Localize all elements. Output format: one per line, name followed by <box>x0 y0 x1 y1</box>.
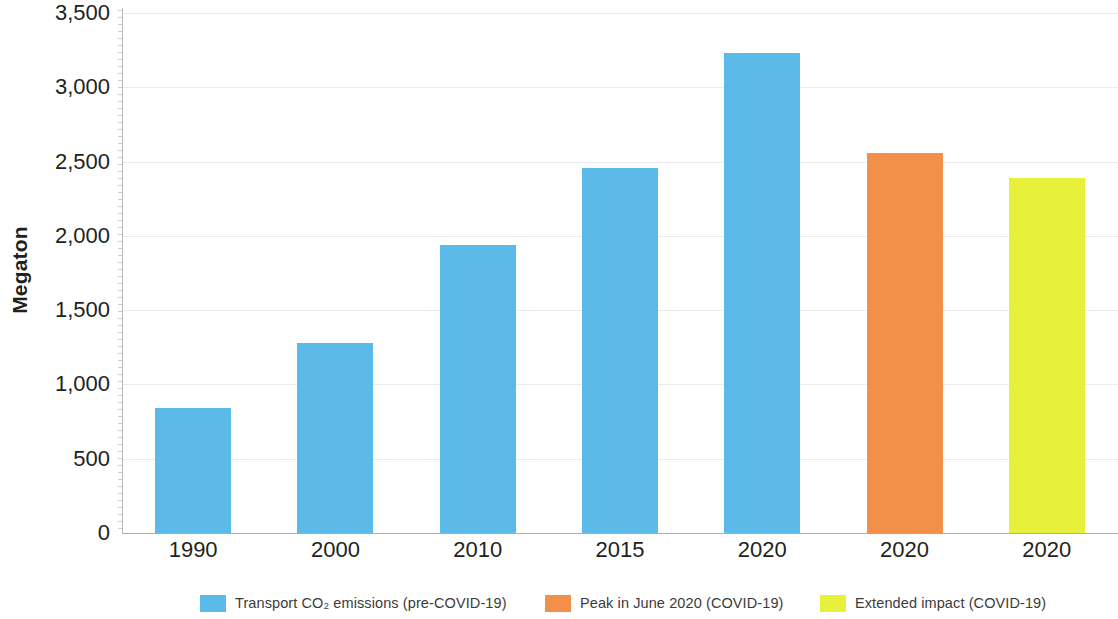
legend-label: Transport CO₂ emissions (pre-COVID-19) <box>235 595 507 611</box>
y-axis-tick-label: 500 <box>18 446 110 472</box>
legend-label: Extended impact (COVID-19) <box>855 595 1046 611</box>
legend-swatch-icon <box>545 595 571 612</box>
y-axis-tick-label: 3,500 <box>18 0 110 26</box>
y-axis-tick-label: 3,000 <box>18 74 110 100</box>
legend-item[interactable]: Transport CO₂ emissions (pre-COVID-19) <box>200 589 507 617</box>
x-axis-tick-label: 2010 <box>418 537 538 563</box>
x-axis-tick-label: 2015 <box>560 537 680 563</box>
legend: Transport CO₂ emissions (pre-COVID-19)Pe… <box>0 589 1118 619</box>
legend-item[interactable]: Extended impact (COVID-19) <box>820 589 1046 617</box>
legend-label: Peak in June 2020 (COVID-19) <box>580 595 784 611</box>
y-axis-tick-label: 2,000 <box>18 223 110 249</box>
x-axis-tick-label: 2000 <box>275 537 395 563</box>
legend-item[interactable]: Peak in June 2020 (COVID-19) <box>545 589 784 617</box>
x-axis-tick-labels: 1990200020102015202020202020 <box>122 0 1118 575</box>
x-axis-tick-label: 2020 <box>702 537 822 563</box>
x-axis-tick-label: 2020 <box>845 537 965 563</box>
y-axis-tick-label: 1,000 <box>18 371 110 397</box>
y-axis-tick-label: 0 <box>18 520 110 546</box>
y-axis-tick-labels: 3,5003,0002,5002,0001,5001,0005000 <box>10 0 110 534</box>
x-axis-tick-label: 2020 <box>987 537 1107 563</box>
x-axis-tick-label: 1990 <box>133 537 253 563</box>
y-axis-tick-label: 1,500 <box>18 297 110 323</box>
legend-swatch-icon <box>820 595 846 612</box>
bar-chart: Megaton 3,5003,0002,5002,0001,5001,00050… <box>0 0 1118 619</box>
legend-swatch-icon <box>200 595 226 612</box>
y-axis-tick-label: 2,500 <box>18 149 110 175</box>
